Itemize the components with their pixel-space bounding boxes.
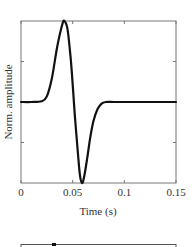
line-chart: 00.050.10.15 Time (s) Norm. amplitude [0,0,195,247]
next-panel-line-start [52,243,56,246]
x-tick-labels: 00.050.10.15 [18,186,186,198]
x-tick-label: 0.15 [166,186,186,198]
x-tick-label: 0.05 [63,186,83,198]
x-tick-label: 0 [18,186,24,198]
waveform-line [21,21,176,184]
x-axis-label: Time (s) [79,205,117,218]
x-tick-label: 0.1 [117,186,131,198]
y-axis-label: Norm. amplitude [2,64,14,139]
